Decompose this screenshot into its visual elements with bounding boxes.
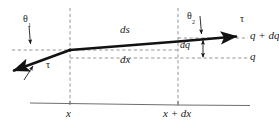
label-theta2: θ2: [187, 11, 195, 23]
label-x-plus-dx-tick: x + dx: [163, 108, 191, 119]
theta1-pointer: [29, 26, 31, 44]
label-theta1: θ1: [23, 14, 31, 26]
cable-element-diagram: [0, 0, 279, 129]
label-q: q: [250, 51, 256, 62]
label-dx: dx: [120, 54, 130, 65]
theta1-lower-pointer: [24, 66, 33, 80]
angle-indicator-arrows: [24, 16, 203, 80]
label-tau-right: τ: [240, 14, 244, 24]
baseline-axis: [30, 101, 250, 106]
label-x-tick: x: [66, 108, 71, 119]
label-dq: dq: [180, 40, 190, 50]
theta2-pointer: [200, 16, 202, 34]
label-tau-left: τ: [46, 60, 50, 70]
label-ds: ds: [120, 24, 130, 35]
label-q-plus-dq: q + dq: [250, 30, 279, 41]
